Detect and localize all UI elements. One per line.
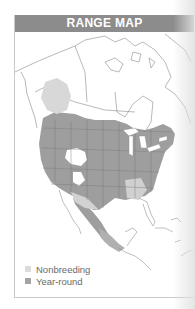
year-round-west <box>39 112 175 210</box>
year-round-swatch <box>25 278 31 284</box>
canada-outline <box>15 34 191 132</box>
legend-label-year-round: Year-round <box>36 276 83 287</box>
map-legend: Nonbreeding Year-round <box>25 263 90 287</box>
legend-item-nonbreeding: Nonbreeding <box>25 263 90 275</box>
year-round-range <box>39 112 175 252</box>
range-map-header: RANGE MAP <box>15 15 194 32</box>
year-round-mexico-east <box>99 228 125 252</box>
nonbreeding-swatch <box>25 266 31 272</box>
legend-label-nonbreeding: Nonbreeding <box>36 264 90 275</box>
north-america-map <box>15 32 194 272</box>
legend-item-year-round: Year-round <box>25 275 90 287</box>
range-map-card: RANGE MAP <box>14 15 194 298</box>
